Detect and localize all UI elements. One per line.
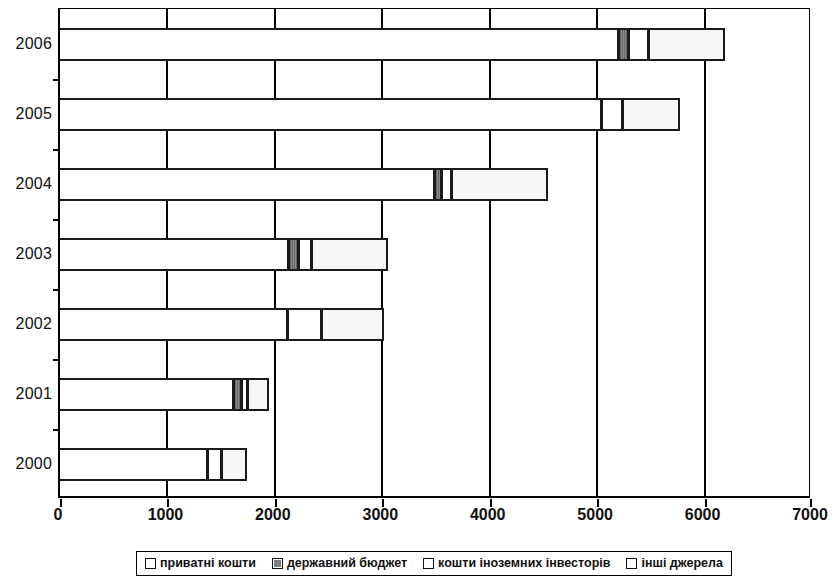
bar-segment-2001-budget (234, 378, 242, 411)
legend-label-2: кошти іноземних інвесторів (438, 557, 610, 570)
bar-segment-2000-foreign (208, 448, 222, 481)
bar-segment-2005-private (60, 98, 602, 131)
y-tick-boundary-6 (53, 429, 60, 431)
bar-segment-2000-other (222, 448, 247, 481)
y-tick-boundary-3 (53, 219, 60, 221)
bar-segment-2003-other (312, 238, 388, 271)
y-axis-label-2004: 2004 (0, 176, 52, 192)
y-tick-boundary-1 (53, 79, 60, 81)
y-axis-label-2001: 2001 (0, 386, 52, 402)
y-tick-boundary-2 (53, 149, 60, 151)
legend-label-3: інші джерела (641, 557, 722, 570)
y-axis-label-2006: 2006 (0, 36, 52, 52)
bar-segment-2006-other (649, 28, 725, 61)
legend-item-3[interactable]: інші джерела (626, 557, 722, 570)
y-axis-label-2002: 2002 (0, 316, 52, 332)
bar-segment-2004-other (452, 168, 548, 201)
gridline-5000 (596, 9, 598, 496)
y-axis-category-labels: 2006200520042003200220012000 (0, 8, 52, 498)
x-axis-label-6000: 6000 (685, 506, 721, 524)
x-axis-label-3000: 3000 (362, 506, 398, 524)
y-tick-boundary-4 (53, 289, 60, 291)
bar-segment-2004-private (60, 168, 435, 201)
bar-segment-2003-foreign (299, 238, 312, 271)
bar-segment-2003-private (60, 238, 289, 271)
x-axis-label-1000: 1000 (148, 506, 184, 524)
legend-swatch-icon-2 (423, 558, 434, 569)
plot-area (58, 8, 810, 498)
bar-segment-2002-other (322, 308, 384, 341)
x-axis-label-0: 0 (54, 506, 63, 524)
bar-segment-2004-budget (435, 168, 442, 201)
bar-segment-2006-private (60, 28, 619, 61)
y-axis-label-2005: 2005 (0, 106, 52, 122)
bar-segment-2005-other (623, 98, 680, 131)
gridline-4000 (489, 9, 491, 496)
bar-segment-2001-other (248, 378, 269, 411)
bar-segment-2002-private (60, 308, 288, 341)
bar-segment-2002-foreign (288, 308, 322, 341)
x-axis-label-5000: 5000 (577, 506, 613, 524)
gridline-6000 (704, 9, 706, 496)
bar-segment-2006-foreign (629, 28, 649, 61)
x-axis-label-7000: 7000 (792, 506, 828, 524)
chart-legend: приватні коштидержавний бюджеткошти іноз… (136, 551, 732, 576)
legend-swatch-icon-1 (272, 558, 283, 569)
legend-item-2[interactable]: кошти іноземних інвесторів (423, 557, 610, 570)
bar-segment-2003-budget (289, 238, 299, 271)
x-axis-label-4000: 4000 (470, 506, 506, 524)
legend-item-0[interactable]: приватні кошти (145, 557, 256, 570)
bar-segment-2005-foreign (602, 98, 623, 131)
stacked-bar-chart: 2006200520042003200220012000 01000200030… (0, 0, 836, 580)
legend-swatch-icon-0 (145, 558, 156, 569)
y-axis-label-2000: 2000 (0, 456, 52, 472)
legend-label-1: державний бюджет (287, 557, 407, 570)
bar-segment-2004-foreign (442, 168, 452, 201)
x-axis-tick-labels: 01000200030004000500060007000 (0, 506, 836, 536)
y-tick-boundary-5 (53, 359, 60, 361)
bar-segment-2006-budget (619, 28, 629, 61)
bar-segment-2000-private (60, 448, 208, 481)
legend-label-0: приватні кошти (160, 557, 256, 570)
x-axis-label-2000: 2000 (255, 506, 291, 524)
y-axis-label-2003: 2003 (0, 246, 52, 262)
bar-segment-2001-private (60, 378, 234, 411)
legend-swatch-icon-3 (626, 558, 637, 569)
legend-item-1[interactable]: державний бюджет (272, 557, 407, 570)
